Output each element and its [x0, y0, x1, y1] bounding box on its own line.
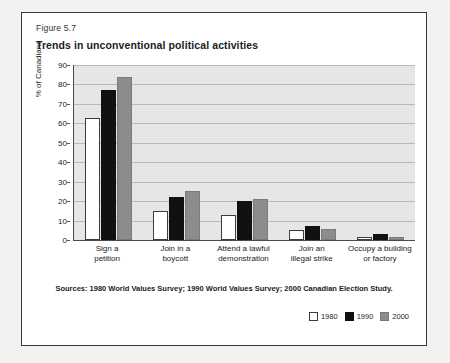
y-axis-tick-mark [67, 162, 70, 163]
bar-1990 [169, 197, 184, 240]
legend-item-1990: 1990 [345, 312, 374, 321]
bar-group [357, 65, 404, 240]
bar-2000 [185, 191, 200, 240]
x-axis-category-label: Join in aboycott [141, 244, 209, 264]
x-axis-category-label: Sign apetition [73, 244, 141, 264]
y-axis-tick-label: 40 [58, 158, 67, 167]
x-axis-category-line: Join an [278, 244, 346, 254]
source-note-text: Sources: 1980 World Values Survey; 1990 … [55, 284, 392, 293]
chart-plot-wrapper: % of Canadians 0102030405060708090 Sign … [36, 65, 414, 265]
legend-swatch-1980 [309, 312, 318, 321]
x-axis-category-line: boycott [141, 254, 209, 264]
y-axis-tick-label: 10 [58, 216, 67, 225]
y-axis-tick-mark [67, 123, 70, 124]
legend-label-2000: 2000 [392, 312, 409, 321]
bar-group [289, 65, 336, 240]
y-axis-tick-label: 80 [58, 80, 67, 89]
y-axis-tick-label: 20 [58, 197, 67, 206]
x-axis-category-line: Join in a [141, 244, 209, 254]
y-axis-tick-mark [67, 240, 70, 241]
bar-1990 [305, 226, 320, 240]
bar-2000 [321, 229, 336, 240]
x-axis-category-label: Attend a lawfuldemonstration [209, 244, 277, 264]
y-axis-tick-label: 50 [58, 138, 67, 147]
y-axis-tick-mark [67, 104, 70, 105]
legend-label-1980: 1980 [321, 312, 338, 321]
x-axis-category-line: Sign a [73, 244, 141, 254]
bar-1990 [101, 90, 116, 240]
y-axis-ticks: 0102030405060708090 [46, 65, 70, 240]
legend-swatch-2000 [380, 312, 389, 321]
bar-2000 [253, 199, 268, 240]
figure-title: Trends in unconventional political activ… [36, 39, 258, 51]
x-axis-category-line: petition [73, 254, 141, 264]
bar-group [153, 65, 200, 240]
x-axis-category-line: or factory [346, 254, 414, 264]
bar-1980 [357, 237, 372, 240]
bar-2000 [389, 237, 404, 240]
legend-item-1980: 1980 [309, 312, 338, 321]
bar-1990 [237, 201, 252, 240]
y-axis-tick-label: 70 [58, 99, 67, 108]
y-axis-tick-mark [67, 84, 70, 85]
legend-swatch-1990 [345, 312, 354, 321]
plot-area [73, 65, 415, 241]
figure-card: Figure 5.7 Trends in unconventional poli… [21, 12, 427, 346]
source-note: Sources: 1980 World Values Survey; 1990 … [22, 284, 426, 293]
y-axis-tick-mark [67, 182, 70, 183]
bar-group [85, 65, 132, 240]
y-axis-tick-label: 30 [58, 177, 67, 186]
legend-label-1990: 1990 [357, 312, 374, 321]
x-axis-category-line: demonstration [209, 254, 277, 264]
x-axis-category-line: Attend a lawful [209, 244, 277, 254]
x-axis-category-line: illegal strike [278, 254, 346, 264]
y-axis-tick-label: 60 [58, 119, 67, 128]
bar-1980 [289, 230, 304, 240]
y-axis-tick-label: 90 [58, 61, 67, 70]
y-axis-tick-mark [67, 201, 70, 202]
chart-legend: 198019902000 [309, 312, 409, 321]
y-axis-tick-mark [67, 65, 70, 66]
bar-1980 [85, 118, 100, 241]
bar-2000 [117, 77, 132, 240]
x-axis-category-line: Occupy a building [346, 244, 414, 254]
bar-1980 [153, 211, 168, 240]
y-axis-label: % of Canadians [34, 21, 43, 117]
bar-1990 [373, 234, 388, 240]
legend-item-2000: 2000 [380, 312, 409, 321]
x-axis-category-label: Occupy a buildingor factory [346, 244, 414, 264]
bar-group [221, 65, 268, 240]
x-axis-category-label: Join anillegal strike [278, 244, 346, 264]
y-axis-tick-mark [67, 221, 70, 222]
y-axis-tick-mark [67, 143, 70, 144]
bar-1980 [221, 215, 236, 240]
